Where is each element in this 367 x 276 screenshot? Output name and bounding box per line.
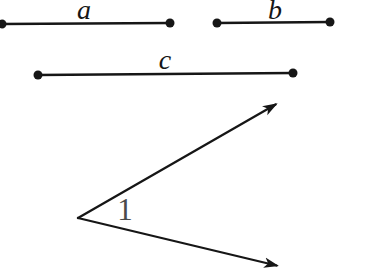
segment-b-label: b — [268, 0, 282, 25]
figure-canvas: a b c 1 — [0, 0, 367, 276]
angle-label: 1 — [117, 192, 133, 227]
segment-b-endpoint-right — [326, 18, 335, 27]
segment-c-endpoint-right — [289, 69, 298, 78]
segment-b-endpoint-left — [213, 19, 222, 28]
segment-a-endpoint-left — [0, 20, 7, 29]
angle-ray-upper — [78, 105, 276, 219]
segment-a-label: a — [77, 0, 91, 25]
geometry-figure: a b c 1 — [0, 0, 367, 276]
segment-a-endpoint-right — [166, 19, 175, 28]
angle-ray-lower — [78, 218, 277, 266]
segment-c-endpoint-left — [34, 71, 43, 80]
segment-c-label: c — [159, 44, 172, 75]
